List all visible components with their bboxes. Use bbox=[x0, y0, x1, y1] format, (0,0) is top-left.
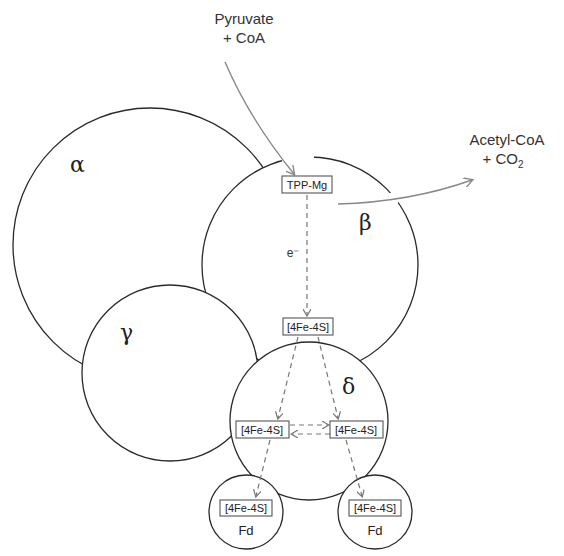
delta-4fe4s-cluster-left: [4Fe-4S] bbox=[236, 421, 289, 438]
beta-gap-top bbox=[282, 153, 314, 163]
gamma-label: γ bbox=[120, 320, 133, 345]
svg-text:[4Fe-4S]: [4Fe-4S] bbox=[241, 424, 283, 436]
delta-label: δ bbox=[342, 374, 355, 399]
svg-text:[4Fe-4S]: [4Fe-4S] bbox=[287, 321, 329, 333]
beta-4fe4s-cluster: [4Fe-4S] bbox=[283, 318, 333, 335]
fd-right-4fe4s-cluster: [4Fe-4S] bbox=[349, 500, 401, 516]
substrate-line1: Pyruvate bbox=[214, 10, 273, 27]
svg-text:[4Fe-4S]: [4Fe-4S] bbox=[335, 424, 377, 436]
product-line1: Acetyl-CoA bbox=[469, 131, 544, 148]
svg-text:[4Fe-4S]: [4Fe-4S] bbox=[225, 502, 267, 514]
fd-right-label: Fd bbox=[367, 523, 382, 538]
tpp-mg-cofactor: TPP-Mg bbox=[282, 176, 332, 193]
product-line2: + CO2 bbox=[483, 150, 524, 170]
delta-4fe4s-cluster-right: [4Fe-4S] bbox=[330, 421, 383, 438]
pfor-diagram: Pyruvate + CoA Acetyl-CoA + CO2 α β γ δ … bbox=[0, 0, 564, 556]
fd-left-label: Fd bbox=[238, 523, 253, 538]
substrate-line2: + CoA bbox=[223, 29, 265, 46]
electron-label: e⁻ bbox=[287, 246, 300, 260]
svg-text:[4Fe-4S]: [4Fe-4S] bbox=[354, 502, 396, 514]
fd-left-4fe4s-cluster: [4Fe-4S] bbox=[220, 500, 272, 516]
alpha-label: α bbox=[70, 152, 85, 177]
beta-label: β bbox=[359, 210, 372, 235]
svg-text:TPP-Mg: TPP-Mg bbox=[287, 179, 327, 191]
